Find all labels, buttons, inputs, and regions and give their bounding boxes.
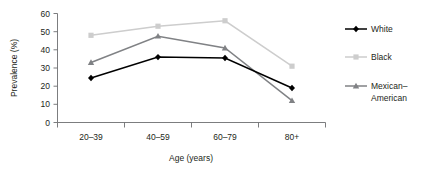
data-point	[88, 33, 93, 38]
data-point	[289, 64, 294, 69]
y-tick-label-60: 60	[41, 9, 51, 19]
x-tick-label-2: 60–79	[213, 132, 237, 142]
legend-marker-black	[353, 54, 358, 59]
x-axis-title: Age (years)	[169, 153, 213, 163]
y-tick-label-20: 20	[41, 81, 51, 91]
legend-label-white: White	[371, 24, 393, 34]
x-tick-label-0: 20–39	[79, 132, 103, 142]
legend-label-black: Black	[371, 52, 393, 62]
y-axis-title: Prevalence (%)	[9, 39, 19, 97]
legend-label-mexican-american-line2: American	[371, 93, 407, 103]
x-tick-label-1: 40–59	[146, 132, 170, 142]
x-tick-label-3: 80+	[285, 132, 299, 142]
y-tick-label-30: 30	[41, 63, 51, 73]
data-point	[155, 24, 160, 29]
data-point	[222, 18, 227, 23]
y-tick-label-10: 10	[41, 99, 51, 109]
prevalence-by-age-line-chart: 0 10 20 30 40 50 60 Prevalence (%) 20–39…	[0, 0, 444, 177]
y-tick-label-40: 40	[41, 45, 51, 55]
y-tick-label-0: 0	[45, 118, 50, 128]
legend-label-mexican-american-line1: Mexican–	[371, 81, 408, 91]
y-tick-label-50: 50	[41, 27, 51, 37]
